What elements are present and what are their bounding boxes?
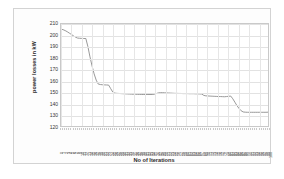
y-axis-tick: 160	[38, 78, 58, 83]
x-axis-title: No of Iterations	[54, 157, 254, 163]
x-axis-tickmark	[106, 128, 107, 130]
x-axis-tick-labels: 0123456789101112131415161718192021222324…	[60, 128, 269, 154]
x-axis-tickmark	[175, 128, 176, 130]
x-axis-tickmark	[81, 128, 82, 130]
x-axis-tickmark	[206, 128, 207, 130]
x-axis-tickmark	[89, 128, 90, 130]
x-axis-tickmark	[256, 128, 257, 130]
x-axis-tickmark	[229, 128, 230, 130]
x-axis-tickmark	[265, 128, 266, 130]
x-axis-tickmark	[259, 128, 260, 130]
vertical-gridline	[197, 24, 198, 126]
x-axis-tickmark	[179, 128, 180, 130]
vertical-gridline	[155, 24, 156, 126]
x-axis-tickmark	[217, 128, 218, 130]
x-axis-tickmark	[254, 128, 255, 130]
vertical-gridline	[166, 24, 167, 126]
x-axis-tickmark	[185, 128, 186, 130]
chart-page-frame: power losses in kW 210200190180170160150…	[13, 8, 271, 164]
x-axis-tickmark	[192, 128, 193, 130]
x-axis-tickmark	[236, 128, 237, 130]
vertical-gridline	[134, 24, 135, 126]
x-axis-tick: 100	[270, 152, 274, 158]
x-axis-tickmark	[183, 128, 184, 130]
x-axis-tickmark	[242, 128, 243, 130]
x-axis-tickmark	[221, 128, 222, 130]
x-axis-tickmark	[190, 128, 191, 130]
x-axis-tickmark	[167, 128, 168, 130]
x-axis-tickmark	[110, 128, 111, 130]
x-axis-tickmark	[73, 128, 74, 130]
y-axis-tick: 150	[38, 90, 58, 95]
x-axis-tickmark	[244, 128, 245, 130]
x-axis-tickmark	[102, 128, 103, 130]
x-axis-tickmark	[121, 128, 122, 130]
vertical-gridline	[82, 24, 83, 126]
x-axis-tickmark	[165, 128, 166, 130]
x-axis-tickmark	[177, 128, 178, 130]
x-axis-tickmark	[96, 128, 97, 130]
y-axis-tick: 210	[38, 21, 58, 26]
x-axis-tickmark	[261, 128, 262, 130]
x-axis-tickmark	[240, 128, 241, 130]
vertical-gridline	[176, 24, 177, 126]
y-axis-tick: 120	[38, 125, 58, 130]
x-axis-tickmark	[187, 128, 188, 130]
x-axis-tickmark	[252, 128, 253, 130]
x-axis-tickmark	[158, 128, 159, 130]
x-axis-tickmark	[154, 128, 155, 130]
y-axis-tick-labels: 210200190180170160150140130120	[38, 23, 58, 127]
x-axis-tickmark	[131, 128, 132, 130]
vertical-gridline	[61, 24, 62, 126]
x-axis-tickmark	[70, 128, 71, 130]
x-axis-tickmark	[68, 128, 69, 130]
x-axis-tickmark	[123, 128, 124, 130]
x-axis-tickmark	[246, 128, 247, 130]
x-axis-tickmark	[146, 128, 147, 130]
vertical-gridline	[260, 24, 261, 126]
x-axis-tickmark	[112, 128, 113, 130]
vertical-gridline	[249, 24, 250, 126]
vertical-gridline	[145, 24, 146, 126]
x-axis-tickmark	[225, 128, 226, 130]
vertical-gridline	[113, 24, 114, 126]
vertical-gridline	[239, 24, 240, 126]
x-axis-tickmark	[196, 128, 197, 130]
x-axis-tickmark	[169, 128, 170, 130]
vertical-gridline	[103, 24, 104, 126]
x-axis-tickmark	[248, 128, 249, 130]
x-axis-tickmark	[213, 128, 214, 130]
x-axis-tickmark	[173, 128, 174, 130]
x-axis-tickmark	[238, 128, 239, 130]
x-axis-tickmark	[148, 128, 149, 130]
x-axis-tickmark	[114, 128, 115, 130]
x-axis-tickmark	[269, 128, 270, 130]
x-axis-tickmark	[98, 128, 99, 130]
x-axis-tickmark	[171, 128, 172, 130]
x-axis-tickmark	[135, 128, 136, 130]
x-axis-tickmark	[156, 128, 157, 130]
x-axis-tickmark	[181, 128, 182, 130]
vertical-gridline	[124, 24, 125, 126]
x-axis-tickmark	[83, 128, 84, 130]
vertical-gridline	[92, 24, 93, 126]
x-axis-tickmark	[75, 128, 76, 130]
vertical-gridline	[71, 24, 72, 126]
x-axis-tickmark	[162, 128, 163, 130]
x-axis-tickmark	[85, 128, 86, 130]
x-axis-tickmark	[250, 128, 251, 130]
x-axis-tickmark	[137, 128, 138, 130]
x-axis-tickmark	[144, 128, 145, 130]
x-axis-tickmark	[267, 128, 268, 130]
vertical-gridline	[218, 24, 219, 126]
x-axis-tickmark	[62, 128, 63, 130]
x-axis-tickmark	[87, 128, 88, 130]
x-axis-tickmark	[204, 128, 205, 130]
x-axis-tickmark	[198, 128, 199, 130]
x-axis-tickmark	[133, 128, 134, 130]
x-axis-tickmark	[100, 128, 101, 130]
x-axis-tickmark	[231, 128, 232, 130]
y-axis-tick: 130	[38, 113, 58, 118]
x-axis-tickmark	[150, 128, 151, 130]
x-axis-tickmark	[142, 128, 143, 130]
